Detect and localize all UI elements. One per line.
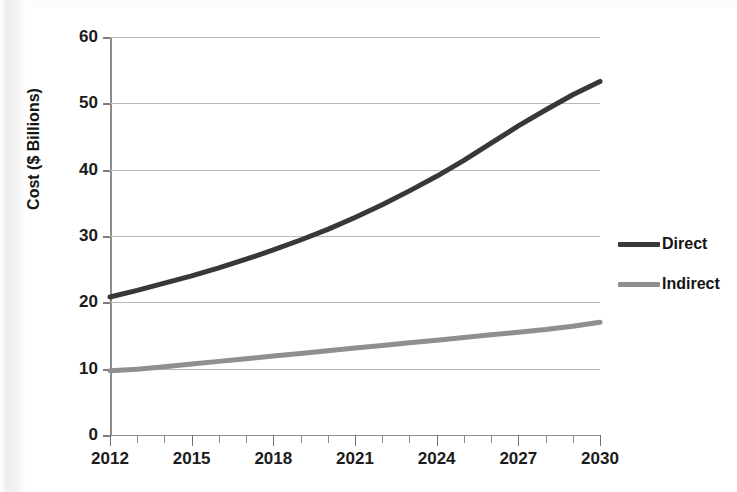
legend-label: Indirect	[662, 275, 720, 293]
y-tick-label: 10	[0, 359, 98, 379]
legend-line-swatch	[618, 282, 660, 287]
plot-area	[110, 37, 600, 435]
scan-artifact-top	[0, 0, 737, 10]
x-axis-minor-tick	[491, 435, 492, 443]
y-axis-tick	[103, 103, 110, 105]
x-tick-label: 2012	[91, 449, 129, 469]
y-axis-title: Cost ($ Billions)	[25, 39, 43, 259]
y-tick-label: 40	[0, 160, 98, 180]
y-tick-label: 20	[0, 292, 98, 312]
x-axis-minor-tick	[246, 435, 247, 443]
y-axis-tick	[103, 236, 110, 238]
x-axis-minor-tick	[382, 435, 383, 443]
x-axis-major-tick	[518, 435, 519, 446]
x-axis-major-tick	[437, 435, 438, 446]
x-axis-minor-tick	[137, 435, 138, 443]
y-axis-tick	[103, 170, 110, 172]
x-tick-label: 2027	[499, 449, 537, 469]
x-axis-minor-tick	[301, 435, 302, 443]
x-tick-label: 2021	[336, 449, 374, 469]
x-axis-minor-tick	[573, 435, 574, 443]
x-axis-major-tick	[273, 435, 274, 446]
x-axis-major-tick	[600, 435, 601, 446]
x-tick-label: 2030	[581, 449, 619, 469]
data-series-layer	[110, 37, 600, 435]
x-axis-minor-tick	[328, 435, 329, 443]
chart-figure: 6050403020100 Cost ($ Billions) 20122015…	[0, 0, 737, 492]
series-line-indirect	[110, 322, 600, 370]
x-axis-major-tick	[110, 435, 111, 446]
x-axis-minor-tick	[464, 435, 465, 443]
chart-legend: DirectIndirect	[618, 224, 733, 304]
x-axis-minor-tick	[219, 435, 220, 443]
y-tick-label: 30	[0, 226, 98, 246]
series-line-direct	[110, 81, 600, 297]
legend-line-swatch	[618, 242, 660, 247]
y-tick-label: 0	[0, 425, 98, 445]
legend-item-indirect[interactable]: Indirect	[618, 264, 733, 304]
x-tick-label: 2024	[418, 449, 456, 469]
y-tick-label: 60	[0, 27, 98, 47]
x-tick-label: 2018	[254, 449, 292, 469]
y-tick-label: 50	[0, 93, 98, 113]
legend-label: Direct	[662, 235, 707, 253]
x-axis-minor-tick	[546, 435, 547, 443]
x-tick-label: 2015	[173, 449, 211, 469]
x-axis-minor-tick	[164, 435, 165, 443]
y-axis-tick	[103, 435, 110, 437]
x-axis-minor-tick	[409, 435, 410, 443]
y-axis-tick-labels: 6050403020100	[0, 0, 98, 492]
legend-item-direct[interactable]: Direct	[618, 224, 733, 264]
x-axis-major-tick	[192, 435, 193, 446]
x-axis-major-tick	[355, 435, 356, 446]
y-axis-tick	[103, 37, 110, 39]
y-axis-tick	[103, 302, 110, 304]
